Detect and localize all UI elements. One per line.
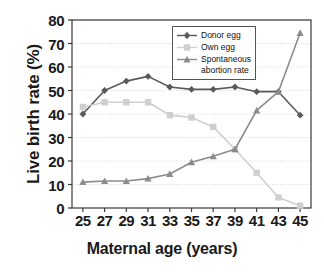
legend-item-donor-egg: Donor egg — [176, 30, 251, 41]
x-tick-label: 39 — [227, 212, 243, 229]
legend-item-spontaneous-abortion-rate: Spontaneous abortion rate — [176, 54, 251, 75]
legend-label-spontaneous-abortion-rate: Spontaneous abortion rate — [201, 54, 251, 75]
x-tick-label: 29 — [118, 212, 134, 229]
diamond-marker-icon — [176, 30, 198, 41]
legend-label-donor-egg: Donor egg — [201, 30, 241, 41]
x-tick-label: 33 — [162, 212, 178, 229]
x-tick-label: 37 — [205, 212, 221, 229]
legend-item-own-egg: Own egg — [176, 42, 251, 53]
x-tick-label: 35 — [184, 212, 200, 229]
x-axis-tick-labels: 2527293133353739414345 — [0, 212, 324, 236]
series-own-egg — [80, 99, 304, 209]
x-tick-label: 25 — [75, 212, 91, 229]
chart-container: Live birth rate (%) 80706050403020100 Do… — [0, 0, 324, 272]
x-tick-label: 43 — [271, 212, 287, 229]
x-tick-label: 45 — [292, 212, 308, 229]
x-tick-label: 31 — [140, 212, 156, 229]
x-tick-label: 27 — [97, 212, 113, 229]
x-axis-title: Maternal age (years) — [0, 240, 324, 258]
x-tick-label: 41 — [249, 212, 265, 229]
square-marker-icon — [176, 42, 198, 53]
legend-label-own-egg: Own egg — [201, 42, 235, 53]
chart-legend: Donor egg Own egg Spontaneous abortion r… — [172, 26, 256, 80]
triangle-marker-icon — [176, 54, 198, 65]
